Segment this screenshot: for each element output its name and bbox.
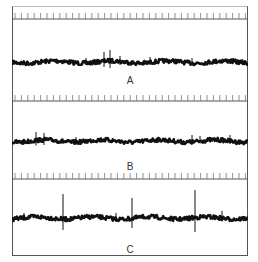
panel-c-label: C <box>12 245 248 255</box>
panel-c: C <box>12 166 248 256</box>
trace-b-plot <box>12 88 248 168</box>
panel-a: A <box>12 6 248 88</box>
trace-c-plot <box>12 166 248 256</box>
panel-b: B <box>12 88 248 168</box>
panel-a-label: A <box>12 76 248 86</box>
